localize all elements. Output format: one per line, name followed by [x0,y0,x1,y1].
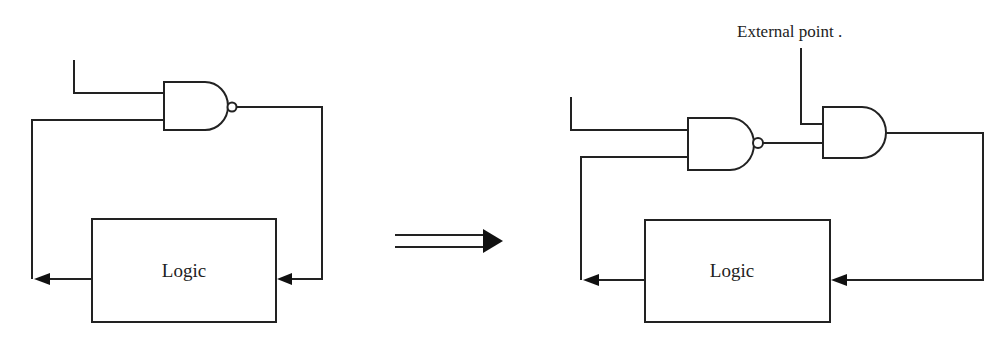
external-point-wire [801,48,823,124]
arrowhead-into-logic-icon [277,273,292,285]
nand-gate-icon [688,118,754,170]
nand-input-a-wire [74,60,164,93]
external-point-label: External point . [737,22,842,41]
and-gate-icon [823,107,886,158]
inversion-bubble-icon [228,103,237,112]
nand-gate-icon [164,82,228,130]
arrowhead-into-logic-icon [831,274,847,286]
arrowhead-left-icon [34,273,50,285]
nand-input-a-wire [571,97,688,130]
circuit-diagram: Logic External point . Logic [0,0,1007,342]
before-circuit: Logic [32,60,322,322]
after-circuit: External point . Logic [571,22,983,322]
logic-block-label: Logic [162,260,206,281]
double-arrow-right-icon [395,229,503,253]
inversion-bubble-icon [753,138,763,148]
arrowhead-left-icon [583,274,599,286]
logic-block-label: Logic [710,260,754,281]
